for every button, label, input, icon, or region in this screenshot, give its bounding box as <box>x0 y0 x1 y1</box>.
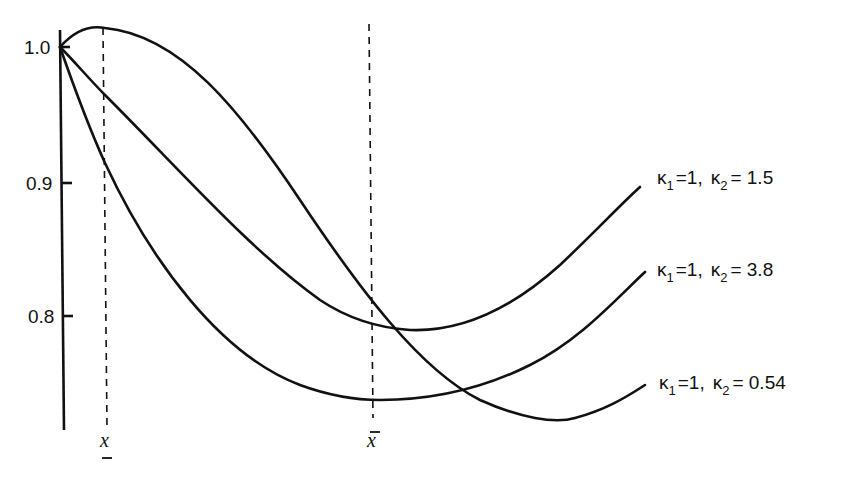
legend-k2-1.5: κ1=1,κ2= 1.5 <box>657 167 773 193</box>
y-axis <box>60 30 64 430</box>
legend-k2-3.8: κ1=1,κ2= 3.8 <box>657 259 773 285</box>
curve-k2-0.54 <box>60 27 645 420</box>
svg-text:κ1=1,κ2= 3.8: κ1=1,κ2= 3.8 <box>657 259 773 285</box>
y-tick-label-1.0: 1.0 <box>24 37 50 58</box>
svg-text:κ1=1,κ2= 0.54: κ1=1,κ2= 0.54 <box>659 372 786 398</box>
legend-k2-0.54: κ1=1,κ2= 0.54 <box>659 372 786 398</box>
chart-canvas: 1.0 0.9 0.8 x x κ1=1,κ2= 1.5 κ1=1,κ2= 3.… <box>0 0 853 480</box>
x-lower-label: x <box>99 429 109 451</box>
svg-text:κ1=1,κ2= 1.5: κ1=1,κ2= 1.5 <box>657 167 773 193</box>
curve-k2-3.8 <box>60 47 645 400</box>
x-upper-dashed-line <box>369 24 373 418</box>
y-tick-label-0.8: 0.8 <box>28 306 54 327</box>
y-tick-label-0.9: 0.9 <box>26 173 52 194</box>
curve-k2-1.5 <box>60 47 640 330</box>
x-lower-dashed-line <box>103 28 107 428</box>
